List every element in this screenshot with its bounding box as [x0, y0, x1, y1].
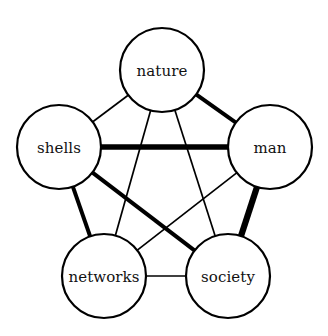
node-shells[interactable]: shells [17, 105, 101, 189]
node-society[interactable]: society [186, 234, 270, 318]
network-graph-canvas: naturemansocietynetworksshells [0, 0, 328, 336]
node-nature[interactable]: nature [120, 28, 204, 112]
node-label-networks: networks [68, 268, 139, 286]
node-networks[interactable]: networks [62, 234, 146, 318]
edge-nature-society [175, 109, 216, 237]
node-label-shells: shells [37, 139, 81, 157]
node-label-society: society [201, 268, 255, 286]
edge-nature-networks [115, 109, 151, 236]
edge-man-society [241, 186, 258, 237]
node-man[interactable]: man [228, 105, 312, 189]
node-label-man: man [253, 139, 286, 157]
edge-nature-shells [92, 95, 129, 123]
nodes-layer: naturemansocietynetworksshells [17, 28, 312, 318]
edge-shells-networks [73, 186, 91, 238]
network-diagram: naturemansocietynetworksshells [0, 0, 328, 336]
node-label-nature: nature [137, 62, 188, 80]
edge-nature-man [195, 94, 236, 123]
